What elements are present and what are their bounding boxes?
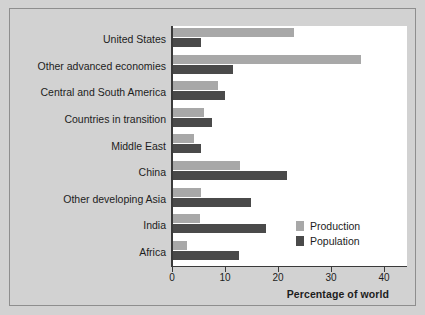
- bar-row: Other advanced economies: [0, 53, 425, 80]
- bar-population: [173, 224, 266, 233]
- bar-population: [173, 171, 287, 180]
- category-label: United States: [103, 33, 166, 45]
- legend-item-production: Production: [296, 218, 360, 233]
- category-label: Countries in transition: [64, 113, 166, 125]
- bar-population: [173, 65, 233, 74]
- x-axis-line: [171, 266, 407, 267]
- bar-population: [173, 118, 212, 127]
- category-label: Africa: [139, 246, 166, 258]
- bar-production: [173, 134, 194, 143]
- category-label: Middle East: [111, 140, 166, 152]
- bar-row: Countries in transition: [0, 106, 425, 133]
- bar-row: Other developing Asia: [0, 186, 425, 213]
- category-label: China: [139, 166, 166, 178]
- legend-label-population: Population: [310, 235, 360, 247]
- bar-row: India: [0, 212, 425, 239]
- category-label: India: [143, 219, 166, 231]
- bar-population: [173, 144, 201, 153]
- bar-row: Central and South America: [0, 79, 425, 106]
- category-label: Central and South America: [41, 86, 167, 98]
- bar-row: Africa: [0, 239, 425, 266]
- bar-production: [173, 28, 294, 37]
- chart-legend: Production Population: [296, 218, 360, 248]
- legend-item-population: Population: [296, 233, 360, 248]
- category-label: Other developing Asia: [63, 193, 166, 205]
- bar-population: [173, 251, 239, 260]
- bar-row: United States: [0, 26, 425, 53]
- x-tick-label: 30: [325, 272, 336, 283]
- bar-production: [173, 81, 218, 90]
- bar-population: [173, 91, 225, 100]
- bar-production: [173, 241, 187, 250]
- x-tick-label: 40: [378, 272, 389, 283]
- bar-production: [173, 161, 240, 170]
- bar-production: [173, 188, 201, 197]
- bar-production: [173, 108, 204, 117]
- legend-swatch-production-icon: [296, 221, 304, 231]
- category-label: Other advanced economies: [38, 60, 166, 72]
- bar-row: China: [0, 159, 425, 186]
- bar-population: [173, 198, 251, 207]
- x-axis-title: Percentage of world: [0, 288, 407, 300]
- legend-label-production: Production: [310, 220, 360, 232]
- legend-swatch-population-icon: [296, 236, 304, 246]
- bar-production: [173, 214, 200, 223]
- x-tick-label: 0: [169, 272, 175, 283]
- x-tick-label: 10: [219, 272, 230, 283]
- chart-figure: 010203040 United StatesOther advanced ec…: [0, 0, 425, 315]
- x-tick-label: 20: [272, 272, 283, 283]
- bar-production: [173, 55, 361, 64]
- bar-row: Middle East: [0, 132, 425, 159]
- bar-population: [173, 38, 201, 47]
